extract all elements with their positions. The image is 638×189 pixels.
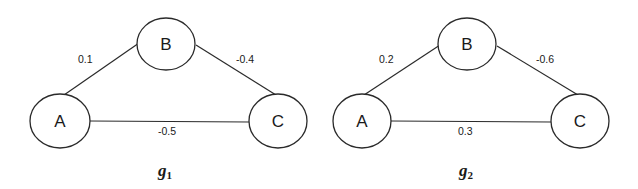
edge-a-b-g1 <box>64 43 139 95</box>
edge-a-c-g1 <box>90 121 249 122</box>
graph-caption-g1: g1 <box>157 161 172 181</box>
edge-a-b-g2 <box>364 45 440 95</box>
node-label-a-g1: A <box>54 112 66 131</box>
edge-weight-a-c-g1: -0.5 <box>158 125 176 137</box>
edge-weight-b-c-g1: -0.4 <box>236 53 254 65</box>
node-label-c-g2: C <box>574 112 586 131</box>
node-c-g1: C <box>249 94 307 148</box>
node-label-b-g1: B <box>160 35 171 54</box>
node-b-g2: B <box>438 18 496 70</box>
node-b-g1: B <box>137 18 195 70</box>
edge-weight-a-b-g1: 0.1 <box>78 53 93 65</box>
node-label-c-g1: C <box>272 112 284 131</box>
node-label-a-g2: A <box>356 112 368 131</box>
node-a-g2: A <box>333 94 391 148</box>
graph-caption-g2: g2 <box>458 161 474 181</box>
node-label-b-g2: B <box>461 35 472 54</box>
node-c-g2: C <box>551 94 609 148</box>
edge-weight-a-c-g2: 0.3 <box>458 125 473 137</box>
edge-weight-b-c-g2: -0.6 <box>536 53 554 65</box>
edge-weight-a-b-g2: 0.2 <box>379 53 394 65</box>
diagram-canvas: 0.1 -0.4 -0.5 A B C g1 0.2 -0.6 0.3 <box>0 0 638 189</box>
edge-a-c-g2 <box>391 121 551 122</box>
graph-g2: 0.2 -0.6 0.3 A B C g2 <box>333 18 609 181</box>
graph-g1: 0.1 -0.4 -0.5 A B C g1 <box>30 18 307 181</box>
node-a-g1: A <box>30 94 90 148</box>
